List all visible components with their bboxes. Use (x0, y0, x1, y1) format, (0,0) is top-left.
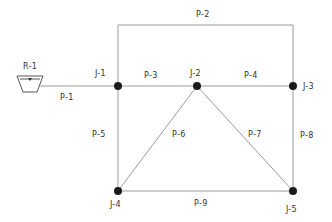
junction-label-j2: J-2 (190, 70, 201, 78)
junction-node-j1[interactable] (114, 82, 122, 90)
pipe-label-p6: P-6 (172, 131, 186, 139)
pipe-label-p7: P-7 (248, 131, 262, 139)
junction-node-j3[interactable] (289, 82, 297, 90)
junction-label-j3: J-3 (303, 83, 314, 91)
pipe-p7 (197, 86, 293, 191)
junction-label-j4: J-4 (110, 201, 121, 209)
pipe-label-p3: P-3 (144, 72, 158, 80)
junction-node-j2[interactable] (193, 82, 201, 90)
pipe-network-diagram: R-1 J-1 J-2 J-3 J-4 J-5 P-1 P-2 P-3 P-4 … (0, 0, 332, 222)
junction-node-j5[interactable] (289, 187, 297, 195)
junction-node-j4[interactable] (114, 187, 122, 195)
reservoir-label: R-1 (23, 63, 37, 71)
pipe-label-p1: P-1 (60, 94, 74, 102)
pipe-label-p4: P-4 (244, 72, 258, 80)
reservoir-icon (17, 76, 43, 92)
junction-label-j1: J-1 (95, 70, 106, 78)
network-drawing (0, 0, 332, 222)
pipe-label-p8: P-8 (300, 132, 314, 140)
pipe-label-p2: P-2 (196, 11, 210, 19)
pipe-label-p9: P-9 (194, 200, 208, 208)
pipe-label-p5: P-5 (92, 131, 106, 139)
junction-label-j5: J-5 (286, 206, 297, 214)
